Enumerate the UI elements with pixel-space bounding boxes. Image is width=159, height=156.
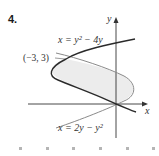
point-leader xyxy=(55,58,65,59)
figure: 4. x = y² − 4y (−3, 3) y x x = 2y − y² xyxy=(0,0,159,156)
dot xyxy=(99,147,102,150)
x-axis-label: x xyxy=(145,105,149,116)
y-axis-label: y xyxy=(107,13,111,24)
y-axis-arrow-icon xyxy=(114,17,119,23)
dot xyxy=(126,147,129,150)
shaded-region xyxy=(52,59,133,104)
dot xyxy=(72,147,75,150)
dot xyxy=(46,147,49,150)
dot xyxy=(19,147,22,150)
dot xyxy=(152,147,155,150)
point-label: (−3, 3) xyxy=(23,53,49,63)
dot-separator xyxy=(0,147,159,153)
curve-1-label: x = y² − 4y xyxy=(58,34,103,45)
curve-2-label: x = 2y − y² xyxy=(58,122,103,133)
